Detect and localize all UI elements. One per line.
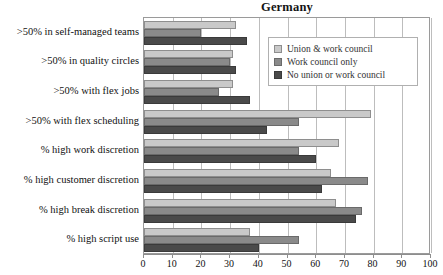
- y-axis-label: % high customer discretion: [0, 174, 139, 185]
- x-axis-tick-label: 0: [141, 258, 146, 269]
- bar: [144, 185, 322, 193]
- bar: [144, 50, 233, 58]
- y-axis-label: >50% in quality circles: [0, 55, 139, 66]
- bar: [144, 215, 356, 223]
- legend-swatch-icon: [274, 58, 282, 66]
- bar: [144, 118, 299, 126]
- x-axis-tick-label: 10: [167, 258, 177, 269]
- y-axis-label: >50% in self-managed teams: [0, 26, 139, 37]
- bar: [144, 96, 250, 104]
- x-axis-tick-label: 100: [423, 258, 438, 269]
- legend-label: No union or work council: [287, 70, 385, 80]
- y-axis-label: >50% with flex scheduling: [0, 115, 139, 126]
- bar: [144, 236, 299, 244]
- bar: [144, 88, 219, 96]
- bar: [144, 177, 368, 185]
- x-axis-tick-label: 20: [195, 258, 205, 269]
- x-axis-tick-label: 60: [310, 258, 320, 269]
- legend-swatch-icon: [274, 45, 282, 53]
- y-axis-label: >50% with flex jobs: [0, 85, 139, 96]
- chart-title: Germany: [143, 0, 431, 15]
- bar: [144, 147, 299, 155]
- bar: [144, 207, 362, 215]
- bar: [144, 169, 331, 177]
- chart-figure: Germany >50% in self-managed teams>50% i…: [0, 0, 443, 275]
- legend-item[interactable]: Work council only: [274, 55, 412, 68]
- legend-label: Work council only: [287, 57, 357, 67]
- bar: [144, 126, 267, 134]
- bar: [144, 37, 247, 45]
- bar: [144, 29, 201, 37]
- bar: [144, 199, 336, 207]
- bar: [144, 21, 236, 29]
- legend-item[interactable]: No union or work council: [274, 68, 412, 81]
- y-axis-label: % high break discretion: [0, 204, 139, 215]
- bar: [144, 228, 250, 236]
- bar: [144, 66, 236, 74]
- bar: [144, 139, 339, 147]
- y-axis-label: % high script use: [0, 233, 139, 244]
- gridline: [431, 18, 432, 253]
- y-axis-label: % high work discretion: [0, 144, 139, 155]
- x-axis-tick-label: 30: [224, 258, 234, 269]
- bar: [144, 80, 233, 88]
- y-axis-category-labels: >50% in self-managed teams>50% in qualit…: [0, 17, 139, 254]
- bar: [144, 58, 230, 66]
- legend-item[interactable]: Union & work council: [274, 42, 412, 55]
- bar: [144, 110, 371, 118]
- legend-label: Union & work council: [287, 44, 373, 54]
- x-axis-tick-label: 90: [396, 258, 406, 269]
- legend-swatch-icon: [274, 71, 282, 79]
- x-axis-tick-label: 80: [368, 258, 378, 269]
- chart-legend: Union & work councilWork council onlyNo …: [268, 37, 418, 86]
- x-axis-tick-label: 70: [339, 258, 349, 269]
- x-axis-tick-label: 50: [282, 258, 292, 269]
- bar: [144, 244, 259, 252]
- bar: [144, 155, 316, 163]
- x-axis-tick-label: 40: [253, 258, 263, 269]
